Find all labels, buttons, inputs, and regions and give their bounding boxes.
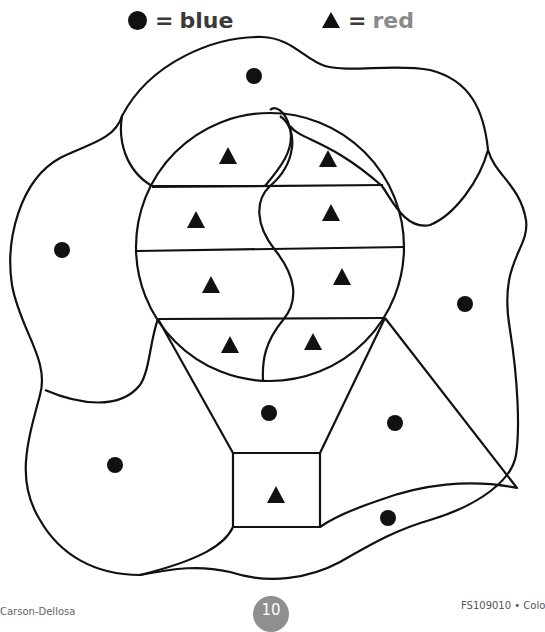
circle-marker: [380, 510, 396, 526]
product-code: FS109010 • Colo: [461, 600, 545, 611]
circle-marker: [107, 457, 123, 473]
page-number-badge: 10: [253, 596, 289, 632]
triangle-marker: [267, 486, 285, 503]
triangle-marker: [187, 211, 205, 228]
balloon-band-2: [137, 247, 405, 251]
circle-marker: [54, 242, 70, 258]
circle-marker: [246, 68, 262, 84]
circle-marker: [387, 415, 403, 431]
triangle-marker: [333, 268, 351, 285]
publisher-credit: Carson-Dellosa: [0, 606, 75, 617]
rope-left: [158, 319, 233, 453]
upper-cloud-outline: [121, 108, 488, 225]
triangle-marker: [304, 333, 322, 350]
triangle-marker: [202, 276, 220, 293]
triangle-marker: [322, 204, 340, 221]
left-region-outline: [45, 319, 158, 403]
circle-marker: [261, 405, 277, 421]
balloon-band-3: [158, 318, 385, 319]
circle-marker: [457, 296, 473, 312]
rope-right: [320, 318, 385, 453]
triangle-marker: [219, 147, 237, 164]
outer-cloud-outline: [10, 37, 526, 579]
triangle-marker: [221, 336, 239, 353]
right-triangle-outline: [320, 318, 517, 527]
